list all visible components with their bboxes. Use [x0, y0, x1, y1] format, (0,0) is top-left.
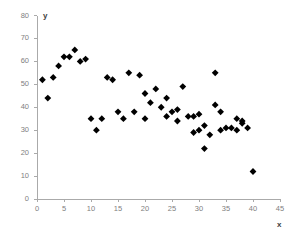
x-tick-label: 20: [137, 205, 153, 213]
x-tick-label: 10: [83, 205, 99, 213]
data-point: [115, 108, 122, 115]
data-point: [136, 72, 143, 79]
data-point: [120, 115, 127, 122]
x-tick-label: 15: [110, 205, 126, 213]
data-point: [147, 99, 154, 106]
plot-area: [0, 0, 297, 235]
data-point: [125, 69, 132, 76]
data-point: [158, 104, 165, 111]
x-tick-label: 0: [29, 205, 45, 213]
data-point: [44, 95, 51, 102]
y-tick-label: 60: [13, 57, 29, 65]
x-tick-label: 30: [191, 205, 207, 213]
data-points: [39, 47, 256, 175]
data-point: [201, 145, 208, 152]
data-point: [88, 115, 95, 122]
data-point: [206, 131, 213, 138]
y-axis-title: y: [43, 12, 47, 20]
data-point: [174, 118, 181, 125]
y-tick-label: 20: [13, 149, 29, 157]
data-point: [250, 168, 257, 175]
data-point: [163, 95, 170, 102]
y-tick-label: 0: [13, 195, 29, 203]
x-tick-label: 40: [245, 205, 261, 213]
y-tick-label: 80: [13, 12, 29, 20]
x-tick-label: 5: [56, 205, 72, 213]
y-tick-label: 40: [13, 103, 29, 111]
data-point: [244, 124, 251, 131]
data-point: [212, 69, 219, 76]
x-tick-label: 25: [164, 205, 180, 213]
data-point: [152, 86, 159, 93]
data-point: [98, 115, 105, 122]
y-tick-label: 30: [13, 126, 29, 134]
x-tick-label: 45: [272, 205, 288, 213]
data-point: [66, 53, 73, 60]
data-point: [163, 113, 170, 120]
x-axis-title: x: [277, 221, 281, 229]
scatter-chart: 01020304050607080 051015202530354045 y x: [0, 0, 297, 235]
data-point: [179, 83, 186, 90]
data-point: [50, 74, 57, 81]
data-point: [201, 122, 208, 129]
y-tick-label: 50: [13, 80, 29, 88]
data-point: [71, 47, 78, 54]
data-point: [55, 63, 62, 70]
data-point: [93, 127, 100, 134]
axis-ticks: [34, 16, 280, 203]
data-point: [131, 108, 138, 115]
data-point: [212, 102, 219, 109]
x-tick-label: 35: [218, 205, 234, 213]
y-tick-label: 70: [13, 34, 29, 42]
data-point: [39, 76, 46, 83]
data-point: [142, 115, 149, 122]
data-point: [217, 108, 224, 115]
data-point: [142, 90, 149, 97]
y-tick-label: 10: [13, 172, 29, 180]
